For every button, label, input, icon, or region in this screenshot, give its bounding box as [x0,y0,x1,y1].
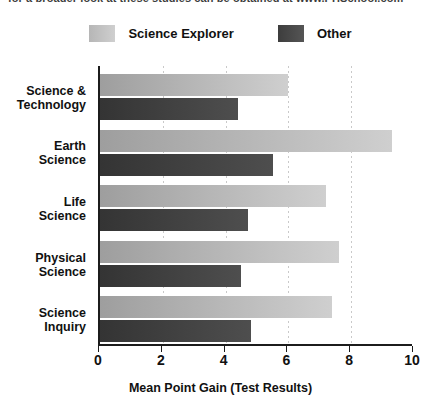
y-axis-label-line: Physical [0,251,86,265]
chart-legend: Science Explorer Other [0,22,441,44]
y-axis-label-line: Inquiry [0,320,86,334]
x-tick-label-8: 8 [329,352,369,368]
y-axis-label-science-inquiry: ScienceInquiry [0,306,86,334]
bar-science-explorer [100,74,288,96]
x-axis-title: Mean Point Gain (Test Results) [0,381,441,395]
bar-group [100,233,414,289]
legend-item-other: Other [278,25,352,42]
y-axis-label-line: Earth [0,139,86,153]
y-axis-label-line: Life [0,195,86,209]
x-tick-label-4: 4 [204,352,244,368]
x-tick-label-6: 6 [266,352,306,368]
y-axis-category-labels: Science &TechnologyEarthScienceLifeScien… [0,66,94,344]
y-axis-label-line: Science [0,153,86,167]
bar-group [100,177,414,233]
bar-science-explorer [100,241,339,263]
y-axis-label-physical-science: PhysicalScience [0,251,86,279]
bar-group [100,288,414,344]
y-axis-label-life-science: LifeScience [0,195,86,223]
bar-other [100,209,248,231]
y-axis-label-line: Technology [0,98,86,112]
x-axis-tick-labels: 0246810 [0,352,441,372]
y-axis-label-line: Science [0,209,86,223]
bar-science-explorer [100,130,392,152]
legend-swatch-science-explorer [89,25,115,42]
bar-other [100,320,251,342]
clipped-header-text: for a broader look at these studies can … [0,0,441,9]
bar-science-explorer [100,185,326,207]
x-tick-label-0: 0 [78,352,118,368]
bar-science-explorer [100,296,332,318]
y-axis-label-line: Science [0,265,86,279]
bar-group [100,66,414,122]
y-axis-label-line: Science & [0,84,86,98]
y-axis-label-line: Science [0,306,86,320]
x-tick-label-10: 10 [392,352,432,368]
x-tick-label-2: 2 [141,352,181,368]
legend-swatch-other [278,25,304,42]
clipped-header-text-label: for a broader look at these studies can … [8,0,403,4]
legend-item-science-explorer: Science Explorer [89,25,234,42]
bar-series-container [100,66,414,344]
legend-label-science-explorer: Science Explorer [128,26,234,41]
bar-other [100,265,241,287]
legend-label-other: Other [317,26,352,41]
bar-other [100,154,273,176]
plot-area [98,66,414,344]
bar-group [100,122,414,178]
y-axis-label-science-technology: Science &Technology [0,84,86,112]
bar-other [100,98,238,120]
y-axis-label-earth-science: EarthScience [0,139,86,167]
